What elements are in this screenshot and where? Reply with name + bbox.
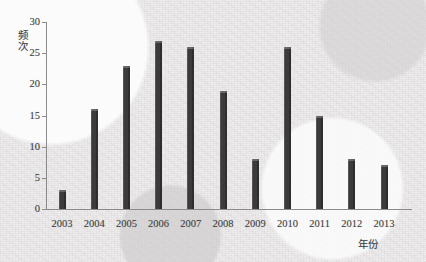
x-axis-tick-label: 2003 (52, 218, 73, 229)
x-axis-tick-label: 2004 (84, 218, 105, 229)
y-axis-tick-label: 20 (16, 79, 40, 90)
bar (91, 109, 98, 209)
y-axis-tick (42, 178, 46, 179)
x-axis-tick-label: 2005 (116, 218, 137, 229)
y-axis-tick-label: 0 (16, 204, 40, 215)
bar (284, 47, 291, 209)
y-axis-tick (42, 147, 46, 148)
y-axis-tick (42, 84, 46, 85)
x-axis-tick-label: 2013 (374, 218, 395, 229)
y-axis-tick (42, 209, 46, 210)
y-axis-tick (42, 53, 46, 54)
y-axis-tick-label: 10 (16, 141, 40, 152)
bar (348, 159, 355, 209)
x-axis-tick-label: 2012 (341, 218, 362, 229)
x-axis-line (46, 209, 412, 210)
y-axis-line (46, 22, 47, 210)
y-axis-tick (42, 22, 46, 23)
bar (123, 66, 130, 209)
y-axis-tick-label: 15 (16, 110, 40, 121)
bar (155, 41, 162, 209)
x-axis-tick-label: 2006 (148, 218, 169, 229)
bar-chart: 频次 年份 0510152025302003200420052006200720… (0, 0, 426, 262)
y-axis-tick-label: 30 (16, 17, 40, 28)
bar (316, 116, 323, 210)
x-axis-tick-label: 2008 (213, 218, 234, 229)
bar (220, 91, 227, 209)
x-axis-tick-label: 2010 (277, 218, 298, 229)
bar (59, 190, 66, 209)
x-axis-tick-label: 2011 (309, 218, 330, 229)
bar (187, 47, 194, 209)
bar (252, 159, 259, 209)
bar (381, 165, 388, 209)
x-axis-tick-label: 2009 (245, 218, 266, 229)
x-axis-tick-label: 2007 (180, 218, 201, 229)
y-axis-tick-label: 25 (16, 48, 40, 59)
y-axis-tick-label: 5 (16, 173, 40, 184)
x-axis-title: 年份 (358, 236, 378, 251)
y-axis-tick (42, 116, 46, 117)
